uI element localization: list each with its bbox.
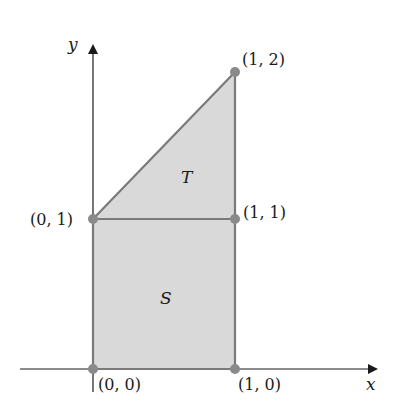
point-0-1 (88, 214, 98, 224)
point-label-0-1: (0, 1) (30, 210, 73, 229)
x-axis-arrow-icon (368, 364, 378, 374)
point-0-0 (88, 364, 98, 374)
point-label-1-2: (1, 2) (242, 50, 285, 69)
region-t-label: T (181, 167, 194, 187)
y-axis-label: y (67, 34, 78, 54)
region-s-label: S (160, 288, 172, 308)
x-axis-label: x (366, 374, 376, 394)
y-axis-arrow-icon (88, 44, 98, 54)
point-1-1 (230, 214, 240, 224)
point-1-0 (230, 364, 240, 374)
point-label-0-0: (0, 0) (98, 375, 141, 394)
point-label-1-0: (1, 0) (238, 375, 281, 394)
region-diagram: x y T S (0, 0) (1, 0) (0, 1) (1, 1) (1, … (0, 0, 408, 418)
point-label-1-1: (1, 1) (243, 203, 286, 222)
point-1-2 (230, 67, 240, 77)
